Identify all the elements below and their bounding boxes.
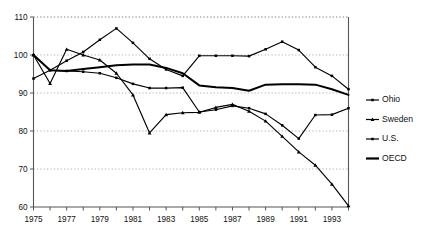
ytick-label-110: 110	[14, 13, 27, 22]
xtick-label-1977: 1977	[58, 215, 77, 224]
series-marker-ohio-1984	[181, 86, 184, 89]
xtick-label-1987: 1987	[223, 215, 242, 224]
legend-label-sweden: Sweden	[382, 114, 413, 124]
series-marker-ohio-1994	[347, 107, 350, 110]
series-marker-ohio-1981	[132, 83, 135, 86]
chart-canvas: 1101009080706019751977197919811983198519…	[0, 0, 427, 245]
series-marker-ohio-1983	[165, 87, 168, 90]
series-marker-u-s-1978	[82, 51, 85, 54]
xtick-label-1983: 1983	[157, 215, 176, 224]
xtick-label-1989: 1989	[257, 215, 276, 224]
chart-figure: 1101009080706019751977197919811983198519…	[0, 0, 427, 245]
xtick-label-1975: 1975	[24, 215, 43, 224]
series-marker-u-s-1992	[314, 66, 317, 69]
series-marker-u-s-1980	[115, 27, 118, 30]
ytick-label-90: 90	[18, 89, 28, 98]
legend-label-oecd: OECD	[382, 153, 407, 163]
series-marker-ohio-1980	[115, 77, 118, 80]
series-marker-ohio-1982	[148, 87, 151, 90]
series-marker-u-s-1979	[99, 39, 102, 42]
series-marker-u-s-1988	[248, 55, 251, 58]
legend-marker-u-s	[371, 138, 374, 141]
ytick-label-70: 70	[18, 165, 28, 174]
series-marker-u-s-1993	[331, 75, 334, 78]
series-marker-ohio-1978	[82, 70, 85, 73]
series-marker-ohio-1989	[264, 113, 267, 116]
series-marker-ohio-1993	[331, 113, 334, 116]
ytick-label-80: 80	[18, 127, 28, 136]
series-line-ohio	[34, 55, 349, 139]
series-marker-ohio-1992	[314, 114, 317, 117]
series-line-sweden	[34, 49, 349, 206]
series-marker-u-s-1981	[132, 42, 135, 45]
series-marker-ohio-1991	[298, 137, 301, 140]
series-marker-u-s-1989	[264, 48, 267, 51]
series-marker-u-s-1977	[65, 59, 68, 62]
series-marker-ohio-1990	[281, 124, 284, 127]
xtick-label-1993: 1993	[323, 215, 342, 224]
xtick-label-1979: 1979	[91, 215, 110, 224]
xtick-label-1991: 1991	[290, 215, 309, 224]
legend-label-ohio: Ohio	[382, 94, 400, 104]
series-marker-u-s-1987	[231, 55, 234, 58]
series-marker-ohio-1988	[248, 107, 251, 110]
line-chart: 1101009080706019751977197919811983198519…	[0, 0, 427, 245]
xtick-label-1985: 1985	[190, 215, 209, 224]
series-marker-u-s-1990	[281, 40, 284, 43]
ytick-label-60: 60	[18, 203, 28, 212]
series-marker-u-s-1985	[198, 55, 201, 58]
series-marker-ohio-1979	[99, 72, 102, 75]
series-marker-u-s-1982	[148, 58, 151, 61]
series-marker-u-s-1991	[298, 49, 301, 52]
xtick-label-1981: 1981	[124, 215, 143, 224]
series-marker-u-s-1975	[32, 77, 35, 80]
ytick-label-100: 100	[14, 51, 28, 60]
series-marker-u-s-1994	[347, 88, 350, 91]
series-marker-sweden-1977	[65, 47, 69, 50]
legend-marker-ohio	[371, 99, 374, 102]
series-line-oecd	[34, 55, 349, 95]
series-marker-u-s-1986	[215, 55, 218, 58]
legend-label-u-s: U.S.	[382, 133, 399, 143]
